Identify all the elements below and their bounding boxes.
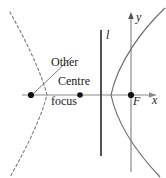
other-focus-point xyxy=(28,92,34,98)
y-axis-arrow-icon xyxy=(128,12,134,19)
focus-label: F xyxy=(133,95,140,108)
diagram-canvas xyxy=(0,0,166,178)
centre-label: Centre xyxy=(58,75,90,88)
y-axis-label: y xyxy=(136,11,141,24)
conic-section-figure: Other focus Centre l F x y xyxy=(0,0,166,178)
other-focus-label-line2: focus xyxy=(51,95,78,108)
other-focus-label-line1: Other xyxy=(51,56,78,69)
directrix-label: l xyxy=(106,29,109,42)
x-axis-label: x xyxy=(152,94,157,107)
